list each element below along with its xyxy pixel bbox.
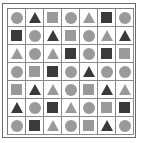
light-triangle-icon	[47, 48, 59, 59]
grid-cell[interactable]	[8, 9, 26, 27]
light-circle-icon	[83, 48, 95, 60]
light-circle-icon	[11, 66, 23, 78]
grid-cell[interactable]	[98, 27, 116, 45]
grid-cell[interactable]	[80, 117, 98, 135]
grid-cell[interactable]	[26, 63, 44, 81]
dark-triangle-icon	[101, 84, 113, 95]
dark-square-icon	[47, 102, 58, 113]
grid-cell[interactable]	[26, 81, 44, 99]
grid-cell[interactable]	[80, 9, 98, 27]
grid-cell[interactable]	[98, 99, 116, 117]
light-triangle-icon	[119, 84, 131, 95]
dark-square-icon	[101, 48, 112, 59]
light-circle-icon	[83, 102, 95, 114]
grid-cell[interactable]	[62, 27, 80, 45]
light-triangle-icon	[47, 84, 59, 95]
grid-cell[interactable]	[8, 81, 26, 99]
light-circle-icon	[119, 66, 131, 78]
grid-cell[interactable]	[80, 63, 98, 81]
light-square-icon	[29, 66, 40, 77]
dark-triangle-icon	[47, 30, 59, 41]
grid-cell[interactable]	[62, 99, 80, 117]
grid-cell[interactable]	[8, 27, 26, 45]
shape-grid	[7, 8, 134, 135]
light-circle-icon	[119, 120, 131, 132]
grid-cell[interactable]	[44, 27, 62, 45]
light-triangle-icon	[83, 12, 95, 23]
light-circle-icon	[29, 102, 41, 114]
grid-cell[interactable]	[116, 9, 134, 27]
grid-cell[interactable]	[8, 45, 26, 63]
grid-cell[interactable]	[8, 117, 26, 135]
dark-square-icon	[101, 12, 112, 23]
light-circle-icon	[65, 120, 77, 132]
grid-cell[interactable]	[98, 81, 116, 99]
grid-cell[interactable]	[44, 99, 62, 117]
dark-square-icon	[65, 48, 76, 59]
light-circle-icon	[29, 30, 41, 42]
dark-triangle-icon	[29, 84, 41, 95]
grid-cell[interactable]	[26, 117, 44, 135]
light-triangle-icon	[47, 120, 59, 131]
grid-cell[interactable]	[98, 117, 116, 135]
grid-cell[interactable]	[98, 9, 116, 27]
grid-cell[interactable]	[62, 63, 80, 81]
grid-cell[interactable]	[8, 99, 26, 117]
light-triangle-icon	[65, 102, 77, 113]
grid-cell[interactable]	[116, 27, 134, 45]
light-circle-icon	[65, 84, 77, 96]
grid-cell[interactable]	[8, 63, 26, 81]
grid-cell[interactable]	[62, 117, 80, 135]
light-square-icon	[11, 84, 22, 95]
grid-cell[interactable]	[98, 45, 116, 63]
grid-cell[interactable]	[116, 81, 134, 99]
dark-triangle-icon	[11, 102, 23, 113]
light-circle-icon	[65, 12, 77, 24]
dark-square-icon	[119, 102, 130, 113]
dark-square-icon	[29, 120, 40, 131]
light-circle-icon	[119, 12, 131, 24]
dark-square-icon	[47, 66, 58, 77]
grid-cell[interactable]	[80, 81, 98, 99]
light-circle-icon	[83, 30, 95, 42]
grid-cell[interactable]	[26, 9, 44, 27]
light-circle-icon	[29, 48, 41, 60]
light-circle-icon	[65, 66, 77, 78]
grid-cell[interactable]	[44, 9, 62, 27]
grid-cell[interactable]	[116, 99, 134, 117]
light-square-icon	[83, 84, 94, 95]
grid-cell[interactable]	[62, 81, 80, 99]
grid-cell[interactable]	[62, 9, 80, 27]
light-square-icon	[65, 30, 76, 41]
grid-cell[interactable]	[80, 27, 98, 45]
light-square-icon	[101, 102, 112, 113]
light-circle-icon	[11, 12, 23, 24]
dark-triangle-icon	[29, 12, 41, 23]
grid-cell[interactable]	[116, 45, 134, 63]
dark-triangle-icon	[83, 66, 95, 77]
light-triangle-icon	[101, 30, 113, 41]
light-triangle-icon	[11, 48, 23, 59]
light-square-icon	[119, 48, 130, 59]
light-square-icon	[47, 12, 58, 23]
light-circle-icon	[101, 66, 113, 78]
grid-cell[interactable]	[116, 63, 134, 81]
grid-cell[interactable]	[44, 117, 62, 135]
grid-cell[interactable]	[44, 81, 62, 99]
grid-cell[interactable]	[26, 99, 44, 117]
dark-square-icon	[11, 30, 22, 41]
grid-cell[interactable]	[80, 45, 98, 63]
dark-triangle-icon	[119, 30, 131, 41]
grid-cell[interactable]	[44, 63, 62, 81]
light-square-icon	[83, 120, 94, 131]
grid-cell[interactable]	[62, 45, 80, 63]
light-circle-icon	[11, 120, 23, 132]
grid-cell[interactable]	[98, 63, 116, 81]
grid-cell[interactable]	[116, 117, 134, 135]
grid-cell[interactable]	[26, 27, 44, 45]
grid-cell[interactable]	[26, 45, 44, 63]
grid-cell[interactable]	[44, 45, 62, 63]
grid-cell[interactable]	[80, 99, 98, 117]
dark-triangle-icon	[101, 120, 113, 131]
